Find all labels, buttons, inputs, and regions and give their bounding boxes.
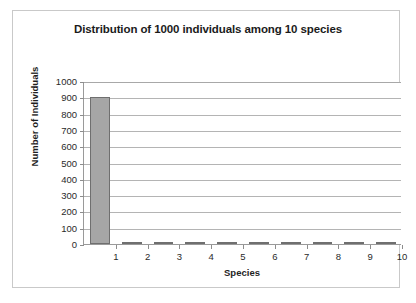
y-axis-tick-label: 600 [37,142,77,152]
bar [90,97,110,244]
bar [313,242,333,244]
y-axis-tick-label: 300 [37,191,77,201]
x-axis-tick-label: 1 [103,251,129,262]
x-axis-title: Species [83,267,401,278]
y-axis-tick-labels: 01002003004005006007008009001000 [37,77,77,237]
y-axis-tick-label: 400 [37,175,77,185]
x-axis-tick-label: 8 [325,251,351,262]
x-axis-ticks: 12345678910 [84,245,402,267]
bar [217,242,237,244]
bars-layer [84,82,401,244]
x-axis-tick-label: 10 [389,251,415,262]
y-axis-tick-label: 100 [37,224,77,234]
x-axis-tick-mark [243,245,244,249]
x-axis-tick-label: 6 [262,251,288,262]
x-axis-tick-label: 4 [198,251,224,262]
bar [376,242,396,244]
x-axis-tick-label: 2 [135,251,161,262]
x-axis-tick-mark [179,245,180,249]
x-axis-tick-mark [148,245,149,249]
y-axis-tick-label: 800 [37,110,77,120]
x-axis-tick-label: 7 [294,251,320,262]
y-axis-tick-label: 1000 [37,77,77,87]
plot-area: 12345678910 [83,82,401,245]
bar [281,242,301,244]
bar [185,242,205,244]
x-axis-tick-mark [211,245,212,249]
x-axis-tick-mark [275,245,276,249]
y-axis-tick-label: 0 [37,240,77,250]
x-axis-tick-label: 9 [357,251,383,262]
x-axis-tick-mark [370,245,371,249]
x-axis-tick-mark [338,245,339,249]
y-axis-tick-label: 900 [37,93,77,103]
bar [249,242,269,244]
x-axis-tick-label: 5 [230,251,256,262]
chart-title: Distribution of 1000 individuals among 1… [43,21,373,37]
bar [344,242,364,244]
x-axis-tick-label: 3 [166,251,192,262]
chart-frame: Distribution of 1000 individuals among 1… [12,10,400,288]
y-axis-tick-label: 700 [37,126,77,136]
x-axis-tick-mark [116,245,117,249]
y-axis-tick-label: 200 [37,207,77,217]
x-axis-tick-mark [307,245,308,249]
bar [122,242,142,244]
x-axis-tick-mark [402,245,403,249]
y-axis-tick-label: 500 [37,159,77,169]
bar [154,242,174,244]
